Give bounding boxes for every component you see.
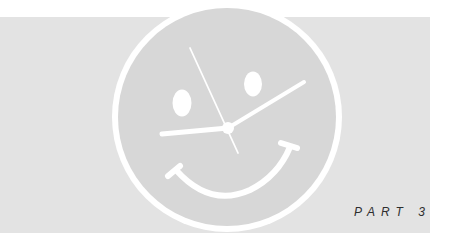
- section-label: PART 3: [354, 205, 431, 219]
- clock-hub-icon: [222, 122, 234, 134]
- left-eye-icon: [173, 90, 192, 117]
- right-eye-icon: [244, 72, 262, 97]
- smiley-clock-illustration: [0, 0, 450, 239]
